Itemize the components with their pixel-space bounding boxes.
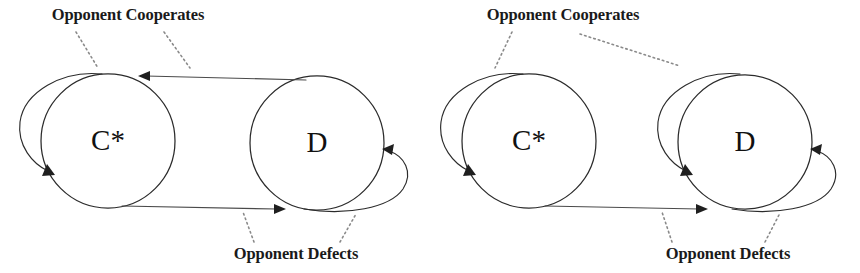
state-node-c-star-left[interactable]: C* (41, 74, 175, 208)
leader-line-bottom-right-b (765, 213, 780, 242)
state-node-c-star-right[interactable]: C* (462, 74, 596, 208)
arrow-head-c-to-c (42, 164, 55, 176)
state-label-d: D (307, 126, 328, 158)
transition-c-to-d-left[interactable] (122, 204, 286, 214)
transition-c-to-d-right[interactable] (545, 204, 708, 214)
arrow-head-d-to-c (138, 71, 150, 81)
self-loop-path-d-left[interactable] (658, 74, 740, 171)
self-loop-path-c-star[interactable] (20, 74, 102, 171)
leader-line-bottom-left-a (243, 212, 254, 242)
edge-path-c-to-d[interactable] (122, 206, 277, 209)
state-diagram-canvas: C* D (0, 0, 860, 273)
self-loop-path-d-right[interactable] (732, 151, 836, 212)
transition-c-to-c-left[interactable] (20, 74, 102, 176)
figure-root: C* D (0, 0, 860, 273)
leader-line-bottom-left-b (340, 214, 356, 242)
diagram-right: C* D (441, 5, 836, 263)
state-label-d: D (735, 125, 756, 157)
transition-d-to-c-left[interactable] (138, 71, 306, 81)
annotation-opponent-defects-left: Opponent Defects (234, 244, 359, 263)
state-node-d-right[interactable]: D (678, 75, 812, 209)
leader-line-top-left-b (164, 32, 190, 68)
arrow-head-c-to-d (274, 204, 286, 214)
arrow-head-c-to-c (463, 164, 476, 176)
edge-path-d-to-c[interactable] (146, 76, 306, 80)
leader-line-top-right-a (495, 32, 512, 68)
leader-line-bottom-right-a (662, 212, 672, 242)
leader-line-top-right-b (580, 34, 680, 66)
diagram-left: C* D (20, 5, 408, 263)
state-label-c-star: C* (91, 124, 125, 156)
self-loop-path-c-star[interactable] (441, 74, 523, 171)
state-node-d-left[interactable]: D (250, 76, 384, 210)
annotation-opponent-cooperates-right: Opponent Cooperates (487, 5, 640, 24)
transition-c-to-c-right[interactable] (441, 74, 523, 176)
state-label-c-star: C* (512, 124, 546, 156)
edge-path-c-to-d[interactable] (545, 206, 699, 209)
leader-line-top-left-a (76, 32, 98, 68)
transition-d-to-d-left-loop[interactable] (658, 74, 740, 176)
annotation-opponent-cooperates-left: Opponent Cooperates (52, 5, 205, 24)
self-loop-path-d[interactable] (304, 151, 408, 212)
arrow-head-c-to-d (696, 204, 708, 214)
annotation-opponent-defects-right: Opponent Defects (666, 244, 791, 263)
